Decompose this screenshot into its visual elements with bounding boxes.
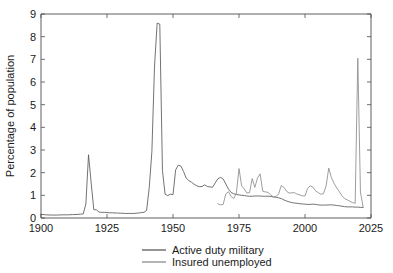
legend-label-insured-unemployed: Insured unemployed [172, 256, 272, 268]
y-axis-title: Percentage of population [4, 55, 16, 177]
x-tick-label: 1975 [227, 222, 251, 234]
x-tick-label: 1900 [29, 222, 53, 234]
legend-label-active-duty-military: Active duty military [172, 244, 264, 256]
y-tick-label: 7 [30, 53, 36, 65]
x-tick-label: 1925 [95, 222, 119, 234]
y-tick-label: 5 [30, 99, 36, 111]
chart-legend: Active duty militaryInsured unemployed [142, 244, 272, 268]
y-tick-label: 4 [30, 121, 36, 133]
chart-canvas: 0123456789 190019251950197520002025 Perc… [0, 0, 393, 273]
x-tick-label: 1950 [161, 222, 185, 234]
x-tick-label: 2000 [293, 222, 317, 234]
y-tick-label: 1 [30, 189, 36, 201]
y-tick-label: 8 [30, 31, 36, 43]
y-tick-label: 6 [30, 76, 36, 88]
plot-background [41, 14, 371, 218]
y-tick-label: 3 [30, 144, 36, 156]
y-tick-label: 9 [30, 8, 36, 20]
chart-figure: 0123456789 190019251950197520002025 Perc… [0, 0, 393, 273]
y-tick-label: 2 [30, 167, 36, 179]
x-tick-label: 2025 [359, 222, 383, 234]
